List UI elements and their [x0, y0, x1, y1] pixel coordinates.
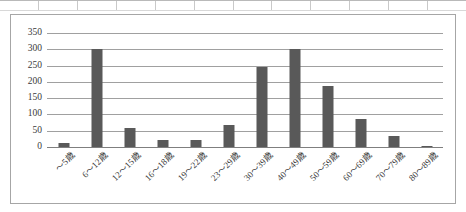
x-axis-category-labels: ～5歳6～12歳12～15歳16～18歳19～22歳23～29歳30～39歳40…	[47, 149, 443, 197]
bar	[388, 136, 399, 147]
x-axis-tick-label: 60～69歳	[341, 151, 373, 183]
bar	[190, 140, 201, 147]
y-axis-tick-label: 150	[28, 93, 42, 103]
table-cell	[195, 1, 234, 10]
table-cell	[156, 1, 195, 10]
y-axis-tick-label: 100	[28, 110, 42, 120]
x-axis-tick-label: 6～12歳	[80, 151, 109, 180]
y-axis-tick-label: 200	[28, 77, 42, 87]
table-cell	[234, 1, 273, 10]
x-axis-tick-label: 23～29歳	[209, 151, 241, 183]
table-cell	[350, 1, 389, 10]
y-axis-tick-label: 0	[37, 142, 42, 152]
table-cell	[39, 1, 78, 10]
table-cell	[428, 1, 466, 10]
x-axis-tick-label: 40～49歳	[275, 151, 307, 183]
bars-layer	[47, 33, 443, 147]
x-axis-tick-label: 19～22歳	[176, 151, 208, 183]
bar	[322, 86, 333, 147]
x-axis-tick-label: 80～89歳	[407, 151, 439, 183]
x-axis-tick-label: 12～15歳	[110, 151, 142, 183]
bar	[58, 143, 69, 147]
table-cell	[78, 1, 117, 10]
gridline	[47, 147, 443, 148]
bar-chart: 050100150200250300350 ～5歳6～12歳12～15歳16～1…	[10, 14, 456, 204]
table-cell	[311, 1, 350, 10]
table-cell	[0, 1, 39, 10]
y-axis-tick-label: 50	[33, 126, 43, 136]
bar	[91, 49, 102, 147]
bar	[289, 49, 300, 147]
x-axis-tick-label: 30～39歳	[242, 151, 274, 183]
bar	[157, 140, 168, 147]
y-axis-tick-label: 300	[28, 45, 42, 55]
x-axis-tick-label: 16～18歳	[143, 151, 175, 183]
bar	[223, 125, 234, 147]
x-axis-tick-label: 70～79歳	[374, 151, 406, 183]
plot-area: 050100150200250300350	[47, 33, 443, 147]
table-cell	[117, 1, 156, 10]
bar	[355, 119, 366, 147]
x-axis-tick-label: 50～59歳	[308, 151, 340, 183]
bar	[421, 146, 432, 147]
top-table-fragment	[0, 0, 466, 11]
bar	[256, 67, 267, 147]
bar	[124, 128, 135, 147]
x-axis-tick-label: ～5歳	[54, 151, 76, 173]
y-axis-tick-label: 250	[28, 61, 42, 71]
y-axis-tick-label: 350	[28, 28, 42, 38]
table-cell	[272, 1, 311, 10]
table-cell	[389, 1, 428, 10]
